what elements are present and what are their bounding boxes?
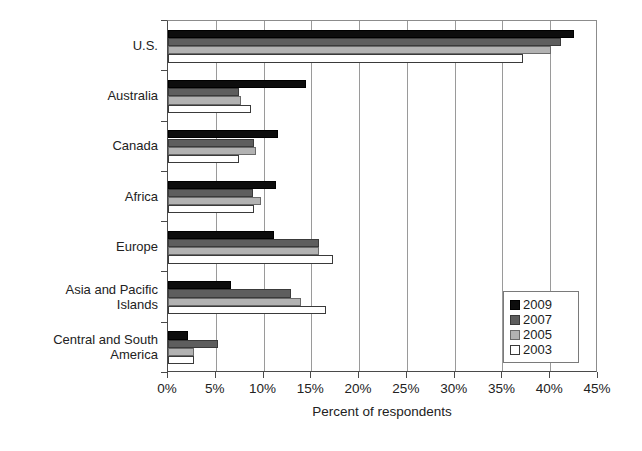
value-tick: [167, 372, 168, 378]
bar: [168, 88, 239, 96]
bar: [168, 255, 333, 263]
value-tick: [597, 372, 598, 378]
bar: [168, 130, 278, 138]
category-label: Canada: [0, 138, 158, 153]
category-label: U.S.: [0, 38, 158, 53]
category-axis-labels: U.S.AustraliaCanadaAfricaEuropeAsia and …: [0, 20, 160, 372]
category-label: Central and South America: [0, 332, 158, 362]
legend-item-label: 2003: [523, 343, 552, 356]
value-tick: [454, 372, 455, 378]
bar: [168, 289, 291, 297]
value-tick: [310, 372, 311, 378]
category-label: Asia and Pacific Islands: [0, 282, 158, 312]
bar-group: [168, 122, 596, 172]
value-tick: [501, 372, 502, 378]
legend-swatch-icon: [510, 300, 520, 310]
legend-item: 2009: [510, 297, 574, 312]
bar: [168, 80, 306, 88]
legend-item-label: 2005: [523, 328, 552, 341]
bar: [168, 96, 241, 104]
bar: [168, 306, 326, 314]
bar: [168, 331, 188, 339]
value-tick: [406, 372, 407, 378]
legend-swatch-icon: [510, 345, 520, 355]
bar: [168, 205, 254, 213]
bar: [168, 147, 256, 155]
bar-group: [168, 222, 596, 272]
bar: [168, 46, 551, 54]
bar: [168, 356, 194, 364]
value-tick: [549, 372, 550, 378]
bar: [168, 247, 319, 255]
bar: [168, 181, 276, 189]
bar: [168, 197, 261, 205]
bar: [168, 155, 239, 163]
bar: [168, 348, 194, 356]
bar: [168, 139, 254, 147]
bar: [168, 298, 301, 306]
legend-item: 2007: [510, 312, 574, 327]
legend-item: 2003: [510, 342, 574, 357]
bar: [168, 54, 523, 62]
legend-swatch-icon: [510, 330, 520, 340]
bar-group: [168, 21, 596, 71]
legend-item-label: 2009: [523, 298, 552, 311]
legend-item: 2005: [510, 327, 574, 342]
bar: [168, 239, 319, 247]
bar: [168, 340, 218, 348]
category-label: Australia: [0, 88, 158, 103]
bar: [168, 231, 274, 239]
value-tick: [358, 372, 359, 378]
value-tick-label: 45%: [569, 381, 625, 396]
bar: [168, 281, 231, 289]
bar-group: [168, 71, 596, 121]
legend-swatch-icon: [510, 315, 520, 325]
bar-group: [168, 172, 596, 222]
x-axis-title: Percent of respondents: [167, 404, 597, 419]
bar-chart: U.S.AustraliaCanadaAfricaEuropeAsia and …: [0, 0, 642, 451]
value-tick: [215, 372, 216, 378]
legend: 2009200720052003: [503, 291, 579, 363]
category-label: Europe: [0, 239, 158, 254]
bar: [168, 189, 253, 197]
legend-item-label: 2007: [523, 313, 552, 326]
bar: [168, 30, 574, 38]
category-label: Africa: [0, 189, 158, 204]
bar: [168, 105, 251, 113]
value-tick: [263, 372, 264, 378]
bar: [168, 38, 561, 46]
